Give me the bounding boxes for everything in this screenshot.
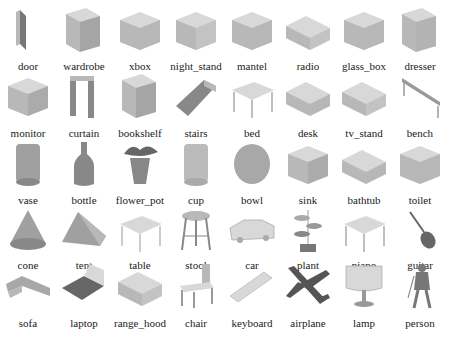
tent-pointcloud-icon bbox=[56, 206, 112, 254]
bowl-pointcloud-icon bbox=[224, 140, 280, 188]
xbox-pointcloud-icon bbox=[112, 6, 168, 54]
bottle-pointcloud-icon bbox=[56, 140, 112, 188]
bookshelf-pointcloud-icon bbox=[112, 72, 168, 120]
bench-pointcloud-icon bbox=[392, 72, 448, 120]
category-label: person bbox=[386, 317, 453, 329]
category-label: bench bbox=[386, 127, 453, 139]
door-pointcloud-icon bbox=[0, 6, 56, 54]
sink-pointcloud-icon bbox=[280, 140, 336, 188]
dresser-pointcloud-icon bbox=[392, 6, 448, 54]
cone-pointcloud-icon bbox=[0, 206, 56, 254]
table-pointcloud-icon bbox=[112, 206, 168, 254]
desk-pointcloud-icon bbox=[280, 72, 336, 120]
piano-pointcloud-icon bbox=[336, 206, 392, 254]
range-hood-pointcloud-icon bbox=[112, 262, 168, 310]
curtain-pointcloud-icon bbox=[56, 72, 112, 120]
stool-pointcloud-icon bbox=[168, 206, 224, 254]
bathtub-pointcloud-icon bbox=[336, 140, 392, 188]
plant-pointcloud-icon bbox=[280, 206, 336, 254]
flower-pot-pointcloud-icon bbox=[112, 140, 168, 188]
car-pointcloud-icon bbox=[224, 206, 280, 254]
mantel-pointcloud-icon bbox=[224, 6, 280, 54]
laptop-pointcloud-icon bbox=[56, 262, 112, 310]
monitor-pointcloud-icon bbox=[0, 72, 56, 120]
chair-pointcloud-icon bbox=[168, 262, 224, 310]
person-pointcloud-icon bbox=[392, 262, 448, 310]
airplane-pointcloud-icon bbox=[280, 262, 336, 310]
wardrobe-pointcloud-icon bbox=[56, 6, 112, 54]
vase-pointcloud-icon bbox=[0, 140, 56, 188]
guitar-pointcloud-icon bbox=[392, 206, 448, 254]
stairs-pointcloud-icon bbox=[168, 72, 224, 120]
glass-box-pointcloud-icon bbox=[336, 6, 392, 54]
keyboard-pointcloud-icon bbox=[224, 262, 280, 310]
sofa-pointcloud-icon bbox=[0, 262, 56, 310]
category-label: toilet bbox=[386, 194, 453, 206]
cup-pointcloud-icon bbox=[168, 140, 224, 188]
tv-stand-pointcloud-icon bbox=[336, 72, 392, 120]
pointcloud-category-grid: doorwardrobexboxnight_standmantelradiogl… bbox=[0, 0, 453, 338]
night-stand-pointcloud-icon bbox=[168, 6, 224, 54]
bed-pointcloud-icon bbox=[224, 72, 280, 120]
lamp-pointcloud-icon bbox=[336, 262, 392, 310]
toilet-pointcloud-icon bbox=[392, 140, 448, 188]
radio-pointcloud-icon bbox=[280, 6, 336, 54]
category-label: dresser bbox=[386, 60, 453, 72]
